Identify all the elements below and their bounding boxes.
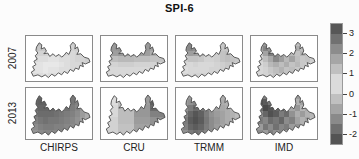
colorbar-segment: [331, 34, 342, 44]
map-cell: [204, 111, 209, 117]
map-cell: [177, 105, 182, 111]
map-panel-2007-cru: [100, 35, 168, 82]
map-panel-2013-cru: [100, 87, 168, 140]
map-cell: [284, 117, 289, 123]
map-cell: [198, 130, 203, 136]
map-cell: [279, 56, 284, 62]
map-cell: [160, 130, 165, 136]
map-cell: [204, 46, 209, 52]
map-cell: [198, 40, 203, 46]
map-cell: [268, 93, 273, 99]
map-cell: [310, 67, 315, 73]
map-cell: [123, 93, 128, 99]
map-cell: [123, 56, 128, 62]
map-cell: [27, 105, 32, 111]
map-cell: [279, 111, 284, 117]
map-cell: [220, 73, 225, 79]
map-cell: [150, 73, 155, 79]
map-cell: [193, 62, 198, 68]
map-cell: [64, 130, 69, 136]
map-cell: [209, 93, 214, 99]
bihar-map-svg: [251, 36, 317, 81]
map-cell: [220, 130, 225, 136]
map-cell: [188, 117, 193, 123]
map-cell: [48, 73, 53, 79]
map-cell: [220, 56, 225, 62]
map-cell: [80, 93, 85, 99]
map-cell: [27, 99, 32, 105]
map-cell: [54, 67, 59, 73]
colorbar-segment: [331, 104, 342, 114]
map-cell: [75, 56, 80, 62]
map-cell: [230, 99, 235, 105]
map-cell: [198, 62, 203, 68]
map-cell: [38, 62, 43, 68]
map-cell: [230, 93, 235, 99]
map-cell: [160, 46, 165, 52]
map-cell: [118, 56, 123, 62]
map-cell: [193, 56, 198, 62]
map-cell: [80, 124, 85, 130]
map-cell: [310, 105, 315, 111]
map-cell: [123, 67, 128, 73]
map-cell: [273, 67, 278, 73]
map-cell: [193, 117, 198, 123]
map-cell: [268, 56, 273, 62]
map-panel-2013-imd: [250, 87, 318, 140]
map-cell: [85, 51, 90, 57]
map-cell: [310, 99, 315, 105]
map-cell: [139, 40, 144, 46]
map-cell: [118, 62, 123, 68]
map-cell: [177, 56, 182, 62]
map-cell: [48, 93, 53, 99]
colorbar-tick-label: 3: [349, 28, 354, 39]
map-cell: [235, 124, 240, 130]
map-cell: [198, 73, 203, 79]
map-cell: [295, 56, 300, 62]
map-cell: [160, 51, 165, 57]
column-label-chirps: CHIRPS: [25, 142, 93, 153]
map-cell: [214, 93, 219, 99]
map-cell: [113, 117, 118, 123]
map-cell: [204, 99, 209, 105]
map-cell: [145, 117, 150, 123]
map-cell: [284, 93, 289, 99]
map-cell: [310, 73, 315, 79]
map-cell: [123, 99, 128, 105]
map-cell: [295, 73, 300, 79]
map-cell: [64, 62, 69, 68]
map-cell: [310, 40, 315, 46]
map-cell: [183, 93, 188, 99]
map-cell: [139, 130, 144, 136]
colorbar-segment: [331, 44, 342, 54]
map-cell: [48, 111, 53, 117]
map-cell: [48, 40, 53, 46]
column-label-cru: CRU: [100, 142, 168, 153]
map-cell: [310, 46, 315, 52]
map-cell: [155, 99, 160, 105]
map-cell: [59, 46, 64, 52]
map-cell: [102, 117, 107, 123]
map-cell: [129, 99, 134, 105]
map-cell: [310, 93, 315, 99]
colorbar-segment: [331, 54, 342, 64]
map-cell: [289, 46, 294, 52]
map-cell: [273, 40, 278, 46]
map-cell: [129, 56, 134, 62]
colorbar-tick-label: 1: [349, 68, 354, 79]
map-cell: [284, 40, 289, 46]
map-cell: [284, 62, 289, 68]
map-cell: [129, 46, 134, 52]
colorbar-tick: [343, 33, 347, 34]
map-cell: [150, 130, 155, 136]
map-cell: [220, 62, 225, 68]
bihar-map-svg: [26, 36, 92, 81]
map-cell: [204, 67, 209, 73]
map-cell: [295, 111, 300, 117]
map-panel-2013-trmm: [175, 87, 243, 140]
map-cell: [139, 56, 144, 62]
map-cell: [273, 56, 278, 62]
map-cell: [27, 51, 32, 57]
map-cell: [80, 73, 85, 79]
map-cell: [279, 117, 284, 123]
